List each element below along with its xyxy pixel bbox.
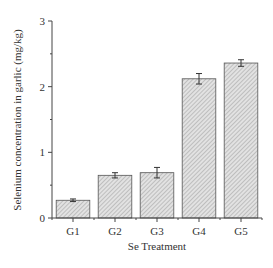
bar-g1 xyxy=(56,200,90,218)
x-tick-label: G3 xyxy=(150,225,164,237)
y-tick-label: 2 xyxy=(40,81,46,93)
bar-chart: 0123 G1G2G3G4G5 Selenium concentration i… xyxy=(0,0,273,268)
x-ticks: G1G2G3G4G5 xyxy=(52,218,262,237)
bar-g4 xyxy=(182,79,216,218)
bars-group xyxy=(56,60,258,218)
bar-g5 xyxy=(224,63,258,218)
y-tick-label: 0 xyxy=(40,212,46,224)
bar-g3 xyxy=(140,173,174,218)
x-tick-label: G2 xyxy=(108,225,121,237)
y-tick-label: 1 xyxy=(40,146,46,158)
y-axis-label: Selenium concentration in garlic (mg/kg) xyxy=(11,29,24,211)
x-tick-label: G1 xyxy=(66,225,79,237)
y-tick-label: 3 xyxy=(40,15,46,27)
x-tick-label: G5 xyxy=(234,225,248,237)
x-tick-label: G4 xyxy=(192,225,206,237)
bar-g2 xyxy=(98,175,132,218)
y-ticks: 0123 xyxy=(40,15,53,224)
x-axis-label: Se Treatment xyxy=(128,240,186,252)
